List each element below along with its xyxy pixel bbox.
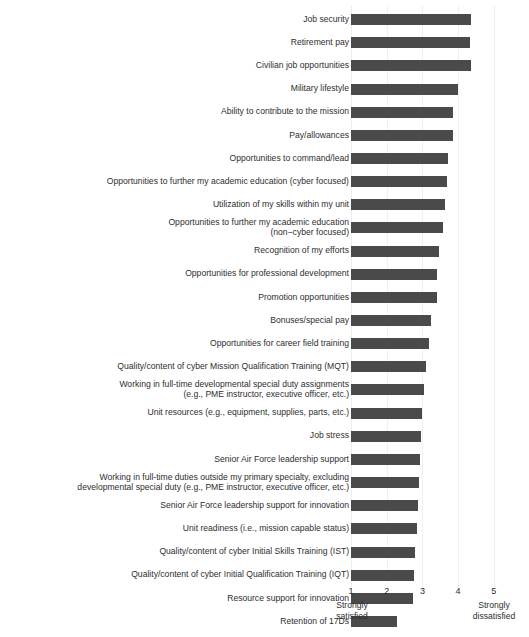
bar-row: Unit readiness (i.e., mission capable st… <box>0 517 529 540</box>
bar-row: Opportunities for career field training <box>0 332 529 355</box>
bar-row: Opportunities to further my academic edu… <box>0 216 529 239</box>
bar-row: Utilization of my skills within my unit <box>0 193 529 216</box>
x-axis-right-endcap: Strongly dissatisfied <box>454 600 529 621</box>
x-tick-5: 5 <box>491 586 496 596</box>
category-label: Retirement pay <box>9 38 349 48</box>
bar-row: Civilian job opportunities <box>0 54 529 77</box>
bar <box>351 199 445 210</box>
bar-row: Quality/content of cyber Initial Qualifi… <box>0 564 529 587</box>
category-label: Job stress <box>9 431 349 441</box>
category-label: Promotion opportunities <box>9 293 349 303</box>
bar-row: Unit resources (e.g., equipment, supplie… <box>0 402 529 425</box>
bar-row: Pay/allowances <box>0 124 529 147</box>
category-label: Opportunities for career field training <box>9 339 349 349</box>
bar-row: Job stress <box>0 425 529 448</box>
bar <box>351 269 437 280</box>
bar-row: Ability to contribute to the mission <box>0 101 529 124</box>
category-label: Unit resources (e.g., equipment, supplie… <box>9 408 349 418</box>
bar <box>351 384 424 395</box>
category-label: Civilian job opportunities <box>9 61 349 71</box>
bar <box>351 408 422 419</box>
x-tick-3: 3 <box>420 586 425 596</box>
category-label: Job security <box>9 15 349 25</box>
bar <box>351 222 443 233</box>
category-label: Working in full-time duties outside my p… <box>9 473 349 492</box>
horizontal-bar-chart: Job securityRetirement payCivilian job o… <box>0 0 529 637</box>
bar <box>351 500 418 511</box>
category-label: Utilization of my skills within my unit <box>9 200 349 210</box>
x-tick-2: 2 <box>384 586 389 596</box>
bar-row: Recognition of my efforts <box>0 240 529 263</box>
bar <box>351 477 419 488</box>
bar <box>351 338 429 349</box>
bar <box>351 153 448 164</box>
bar <box>351 361 426 372</box>
x-tick-4: 4 <box>456 586 461 596</box>
bar-row: Job security <box>0 8 529 31</box>
bar <box>351 176 447 187</box>
bar-row: Opportunities to command/lead <box>0 147 529 170</box>
bar <box>351 107 453 118</box>
category-label: Opportunities to further my academic edu… <box>9 218 349 237</box>
bar-row: Working in full-time developmental speci… <box>0 378 529 401</box>
category-label: Senior Air Force leadership support <box>9 455 349 465</box>
bar <box>351 37 470 48</box>
category-label: Bonuses/special pay <box>9 316 349 326</box>
bar <box>351 570 414 581</box>
bar <box>351 246 439 257</box>
bar <box>351 14 471 25</box>
category-label: Quality/content of cyber Mission Qualifi… <box>9 362 349 372</box>
bar-row: Senior Air Force leadership support for … <box>0 494 529 517</box>
category-label: Recognition of my efforts <box>9 246 349 256</box>
category-label: Opportunities for professional developme… <box>9 269 349 279</box>
bar <box>351 130 453 141</box>
x-axis: 12345 Strongly satisfied Strongly dissat… <box>0 586 529 637</box>
bar-row: Bonuses/special pay <box>0 309 529 332</box>
bar <box>351 547 415 558</box>
category-label: Military lifestyle <box>9 84 349 94</box>
bar <box>351 431 421 442</box>
category-label: Unit readiness (i.e., mission capable st… <box>9 524 349 534</box>
bar-row: Working in full-time duties outside my p… <box>0 471 529 494</box>
plot-area: Job securityRetirement payCivilian job o… <box>0 0 529 590</box>
category-label: Opportunities to further my academic edu… <box>9 177 349 187</box>
bar <box>351 454 420 465</box>
x-axis-left-endcap: Strongly satisfied <box>312 600 392 621</box>
bar-row: Promotion opportunities <box>0 286 529 309</box>
bar-row: Senior Air Force leadership support <box>0 448 529 471</box>
bar <box>351 60 471 71</box>
category-label: Senior Air Force leadership support for … <box>9 501 349 511</box>
bar <box>351 523 417 534</box>
category-label: Ability to contribute to the mission <box>9 107 349 117</box>
category-label: Quality/content of cyber Initial Skills … <box>9 547 349 557</box>
bar <box>351 292 437 303</box>
category-label: Working in full-time developmental speci… <box>9 380 349 399</box>
x-tick-1: 1 <box>348 586 353 596</box>
category-label: Opportunities to command/lead <box>9 154 349 164</box>
category-label: Quality/content of cyber Initial Qualifi… <box>9 570 349 580</box>
bar-row: Opportunities for professional developme… <box>0 263 529 286</box>
bar-row: Quality/content of cyber Initial Skills … <box>0 540 529 563</box>
bar <box>351 84 458 95</box>
bar <box>351 315 431 326</box>
bar-row: Quality/content of cyber Mission Qualifi… <box>0 355 529 378</box>
bar-row: Opportunities to further my academic edu… <box>0 170 529 193</box>
category-label: Pay/allowances <box>9 131 349 141</box>
bar-row: Military lifestyle <box>0 77 529 100</box>
bar-row: Retirement pay <box>0 31 529 54</box>
